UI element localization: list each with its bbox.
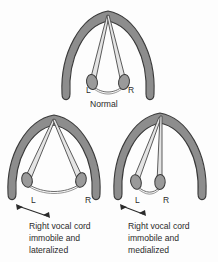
medialized-larynx-svg — [106, 104, 218, 208]
label-right-medialized: R — [163, 196, 169, 205]
thyroid-cartilage-arch — [62, 11, 154, 100]
diagram-lateralized — [0, 108, 110, 208]
right-arytenoid-cartilage — [154, 174, 165, 190]
caption-medialized: Right vocal cord immobile and medialized — [128, 220, 190, 257]
medial-motion-arrow — [118, 203, 150, 221]
label-right-lateralized: R — [85, 196, 91, 205]
double-headed-arrow-icon — [14, 203, 54, 219]
lateralized-larynx-svg — [0, 108, 110, 208]
thyroid-cartilage-arch — [8, 115, 100, 200]
caption-line-3: lateralized — [29, 244, 91, 256]
caption-line-1: Right vocal cord — [128, 220, 190, 232]
caption-line-1: Right vocal cord — [29, 220, 91, 232]
double-headed-arrow-icon — [118, 203, 150, 217]
caption-line-2: immobile and — [128, 232, 190, 244]
caption-line-2: immobile and — [29, 232, 91, 244]
label-left-normal: L — [86, 86, 91, 95]
caption-lateralized: Right vocal cord immobile and lateralize… — [29, 220, 91, 257]
label-right-normal: R — [128, 86, 134, 95]
posterior-commissure-lower — [28, 186, 80, 194]
figure-canvas: L R Normal L R Right vocal cord immobile… — [0, 0, 218, 262]
diagram-medialized — [106, 104, 218, 208]
caption-line-3: medialized — [128, 244, 190, 256]
